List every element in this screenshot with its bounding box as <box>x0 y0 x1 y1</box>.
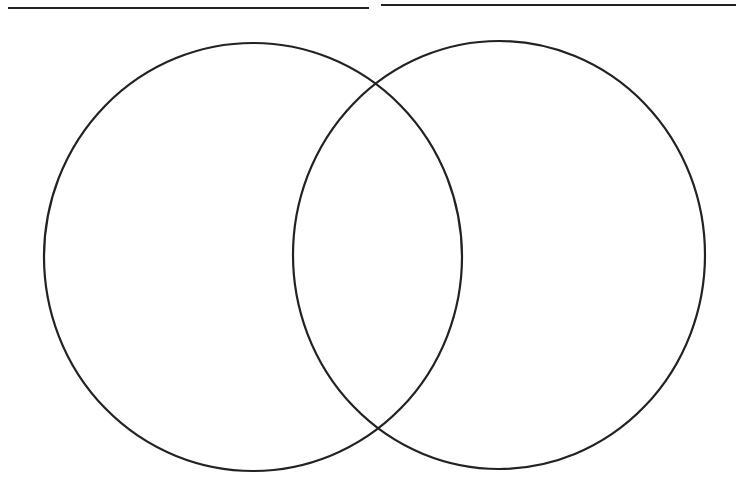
left-circle[interactable] <box>44 43 462 471</box>
right-circle[interactable] <box>293 41 705 469</box>
venn-diagram <box>0 0 751 503</box>
